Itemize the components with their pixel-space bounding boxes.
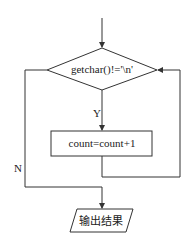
process-text: count=count+1 — [69, 137, 136, 149]
yes-label: Y — [93, 107, 101, 119]
no-label: N — [14, 162, 22, 174]
output-text: 输出结果 — [79, 214, 123, 228]
condition-text: getchar()!='\n' — [71, 63, 133, 76]
flowchart: getchar()!='\n' Y count=count+1 N 输出结果 — [0, 0, 191, 250]
